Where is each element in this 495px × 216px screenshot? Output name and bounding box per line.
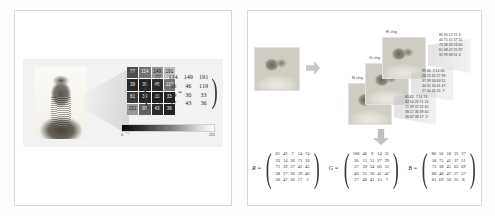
matrix-cell: 26	[353, 158, 360, 165]
matrix-cell: 40	[305, 171, 309, 178]
matrix-cell: 43	[184, 99, 193, 108]
matrix-cell: 17	[283, 171, 287, 178]
matrix-cell: 45	[305, 164, 309, 171]
channel-label-b: B chg	[352, 75, 363, 80]
matrix-cell: 33	[454, 151, 458, 158]
matrix-cell: 41	[377, 171, 381, 178]
channel-matrix-values: 1004691435261531273937393460514031304147…	[353, 151, 389, 184]
matrix-cell: 41	[370, 177, 374, 184]
matrix-cell: 30	[370, 171, 374, 178]
matrix-cell: 37	[454, 158, 458, 165]
matrix-cell: 16	[305, 158, 309, 165]
matrix-cell: 63	[454, 164, 458, 171]
matrix-cell: 36	[169, 82, 178, 91]
matrix-right-paren: )	[212, 77, 218, 105]
matrix-cell: 47	[283, 177, 287, 184]
matrix-cell: 27	[377, 158, 381, 165]
matrix-cell: 61	[153, 91, 162, 100]
matrix-values: 7711414919139364611961393033151974336	[152, 73, 209, 108]
matrix-cell: 97	[169, 99, 178, 108]
matrix-cell: 71	[298, 158, 302, 165]
matrix-cell: 36	[290, 177, 294, 184]
matrix-cell: 75	[439, 158, 443, 165]
matrix-cell: 33	[199, 91, 208, 100]
pixel-cell: 151	[127, 104, 138, 115]
matrix-cell: 7	[290, 151, 294, 158]
channel-label-g: G chg	[369, 55, 380, 60]
matrix-cell: 31	[362, 171, 366, 178]
matrix-right-paren: )	[393, 152, 399, 184]
matrix-cell: 119	[199, 82, 208, 91]
page-root: 7711414919139364611961393033151974336 = …	[0, 0, 495, 216]
matrix-cell: 9	[370, 151, 374, 158]
matrix-cell: 81	[276, 151, 280, 158]
colorbar-min-label: 0	[121, 133, 123, 137]
matrix-cell: 15	[362, 158, 366, 165]
channel-label-r: R chg	[386, 29, 397, 34]
matrix-cell: 60	[377, 164, 381, 171]
matrix-cell: 36	[276, 177, 280, 184]
matrix-cell: 38	[276, 171, 280, 178]
pixel-cell: 39	[127, 79, 138, 90]
matrix-cell: 31	[370, 158, 374, 165]
matrix-cell: 36	[290, 171, 294, 178]
colorbar-gradient	[121, 124, 215, 132]
matrix-cell: 36	[199, 99, 208, 108]
matrix-cell: 86	[432, 151, 436, 158]
channel-matrix: R =(814271474331426711671393742453817363…	[252, 151, 323, 184]
source-color-image	[254, 47, 300, 91]
grayscale-illustration-card: 7711414919139364611961393033151974336 = …	[23, 59, 223, 147]
channel-matrix-values: 8142714743314267116713937424538173639403…	[276, 151, 310, 184]
matrix-cell: 38	[439, 164, 443, 171]
matrix-cell: 69	[461, 164, 465, 171]
matrix-cell: 45	[446, 164, 450, 171]
matrix-cell: 50	[446, 177, 450, 184]
left-panel-grayscale: 7711414919139364611961393033151974336 = …	[14, 10, 232, 206]
matrix-cell: 57	[454, 171, 458, 178]
matrix-cell: 48	[439, 171, 443, 178]
matrix-cell: 33	[276, 158, 280, 165]
matrix-cell: 74	[305, 151, 309, 158]
matrix-cell: 191	[199, 73, 208, 82]
pixel-cell: 61	[127, 92, 138, 103]
matrix-cell: 77	[153, 73, 162, 82]
matrix-cell: 14	[283, 158, 287, 165]
matrix-cell: 51	[461, 158, 465, 165]
matrix-cell: 37	[353, 164, 360, 171]
matrix-cell: 61	[432, 177, 436, 184]
right-panel-rgb: B chg G chg R chg 81 42 7 14 74 33 14 26…	[247, 10, 482, 206]
matrix-left-paren: (	[343, 152, 349, 184]
matrix-cell: 51	[385, 164, 389, 171]
matrix-cell: 35	[385, 151, 389, 158]
channel-matrix-label: R =	[252, 165, 261, 171]
matrix-cell: 100	[353, 151, 360, 158]
matrix-left-paren: (	[266, 152, 272, 184]
arrow-right-icon	[306, 61, 320, 75]
pixel-cell: 77	[127, 67, 138, 78]
number-grid-g: 99 46 9 14 35 26 15 31 27 39 37 39 34 60…	[422, 69, 445, 94]
matrix-cell: 8	[461, 177, 465, 184]
matrix-cell: 42	[298, 164, 302, 171]
matrix-cell: 37	[461, 151, 465, 158]
colorbar-ticks: 0 255	[121, 132, 215, 141]
portrait-image	[35, 67, 87, 139]
matrix-cell: 39	[283, 164, 287, 171]
channel-matrix-label: B =	[408, 165, 417, 171]
rgb-matrices: R =(814271474331426711671393742453817363…	[252, 151, 479, 184]
arrow-down-icon	[373, 129, 389, 145]
number-grid-r: 86 30 12 71 3 40 75 41 37 51 73 38 45 53…	[439, 33, 462, 58]
matrix-cell: 47	[385, 171, 389, 178]
matrix-cell: 3	[305, 177, 309, 184]
matrix-cell: 27	[353, 177, 360, 184]
matrix-cell: 58	[432, 158, 436, 165]
matrix-cell: 37	[290, 164, 294, 171]
matrix-right-paren: )	[313, 152, 319, 184]
channel-matrix-label: G =	[329, 165, 339, 171]
matrix-cell: 17	[298, 177, 302, 184]
matrix-cell: 39	[153, 82, 162, 91]
matrix-cell: 42	[283, 151, 287, 158]
matrix-left-paren: (	[422, 152, 428, 184]
matrix-left-paren: (	[144, 77, 150, 105]
number-grid-b: 81 42 7 14 74 33 14 26 71 16 71 39 37 42…	[405, 95, 428, 120]
matrix-cell: 15	[377, 177, 381, 184]
